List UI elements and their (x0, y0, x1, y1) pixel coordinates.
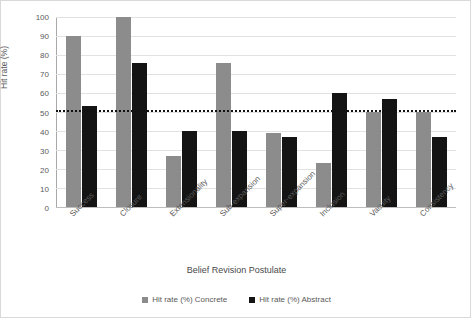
x-tick-cell: Extensionality (156, 210, 206, 266)
legend-item-concrete[interactable]: Hit rate (%) Concrete (142, 295, 227, 304)
chart-legend: Hit rate (%) Concrete Hit rate (%) Abstr… (1, 295, 471, 304)
x-tick-cell: Success (56, 210, 106, 266)
x-tick-cell: Closure (106, 210, 156, 266)
bar-concrete (416, 112, 431, 207)
bar-concrete (166, 156, 181, 207)
bar-concrete (366, 112, 381, 207)
x-tick-cell: Consistency (406, 210, 456, 266)
y-tick-label: 10 (25, 184, 49, 193)
legend-label: Hit rate (%) Concrete (152, 295, 227, 304)
bar-group-sub-expansion (206, 17, 256, 207)
bar-group-extensionality (156, 17, 206, 207)
y-tick-label: 30 (25, 146, 49, 155)
bar-chart-figure: 100 90 80 70 60 50 40 30 20 10 0 Hit rat… (0, 0, 471, 318)
bar-group-super-expansion (256, 17, 306, 207)
legend-swatch-icon (142, 297, 148, 303)
bar-abstract (132, 63, 147, 207)
x-axis-tick-labels: Success Closure Extensionality Sub-expan… (56, 210, 456, 266)
legend-item-abstract[interactable]: Hit rate (%) Abstract (249, 295, 331, 304)
x-tick-cell: Sub-expansion (206, 210, 256, 266)
chance-level-threshold-line (56, 110, 456, 112)
y-tick-label: 100 (25, 13, 49, 22)
legend-swatch-icon (249, 297, 255, 303)
x-tick-cell: Inclusion (306, 210, 356, 266)
bar-concrete (216, 63, 231, 207)
y-tick-label: 0 (25, 204, 49, 213)
bar-concrete (66, 36, 81, 207)
y-tick-label: 40 (25, 127, 49, 136)
y-tick-label: 20 (25, 165, 49, 174)
y-tick-label: 60 (25, 89, 49, 98)
x-tick-cell: Super-expansion (256, 210, 306, 266)
bar-concrete (116, 17, 131, 207)
y-axis-title: Hit rate (%) (0, 46, 9, 89)
bar-abstract (382, 99, 397, 207)
bar-group-consistency (406, 17, 456, 207)
x-axis-title: Belief Revision Postulate (1, 265, 471, 275)
x-tick-cell: Vacuity (356, 210, 406, 266)
bar-concrete (266, 133, 281, 207)
y-tick-label: 80 (25, 51, 49, 60)
bar-group-closure (106, 17, 156, 207)
y-tick-label: 50 (25, 108, 49, 117)
bar-group-vacuity (356, 17, 406, 207)
y-tick-label: 90 (25, 32, 49, 41)
x-axis-line (56, 207, 456, 208)
bar-group-success (56, 17, 106, 207)
y-tick-label: 70 (25, 70, 49, 79)
legend-label: Hit rate (%) Abstract (259, 295, 331, 304)
